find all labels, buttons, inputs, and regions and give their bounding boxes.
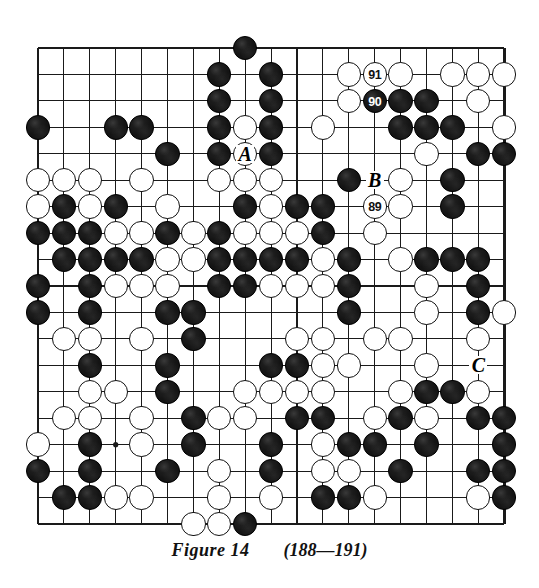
- white-stone: [26, 432, 50, 456]
- white-stone: [155, 274, 179, 298]
- caption-move-range: (188—191): [284, 540, 368, 560]
- white-stone: [363, 327, 387, 351]
- black-stone: [337, 485, 361, 509]
- white-stone: [414, 353, 438, 377]
- white-stone: [233, 115, 257, 139]
- black-stone: [388, 406, 412, 430]
- board-marker-c: C: [469, 356, 487, 374]
- black-stone: [78, 247, 102, 271]
- white-stone: [129, 485, 153, 509]
- white-stone: [337, 459, 361, 483]
- black-stone: [78, 459, 102, 483]
- black-stone: [414, 432, 438, 456]
- white-stone: [155, 194, 179, 218]
- black-stone: [104, 247, 128, 271]
- black-stone: [78, 221, 102, 245]
- black-stone: [466, 300, 490, 324]
- white-stone: [129, 432, 153, 456]
- white-stone: [388, 380, 412, 404]
- black-stone: [388, 115, 412, 139]
- numbered-stone-91: 91: [363, 62, 387, 86]
- black-stone: [181, 327, 205, 351]
- white-stone: [311, 274, 335, 298]
- black-stone: [78, 353, 102, 377]
- white-stone: [311, 327, 335, 351]
- black-stone: [78, 274, 102, 298]
- black-stone: [78, 432, 102, 456]
- black-stone: [311, 485, 335, 509]
- white-stone: [52, 327, 76, 351]
- black-stone: [414, 380, 438, 404]
- black-stone: [155, 300, 179, 324]
- black-stone: [155, 221, 179, 245]
- white-stone: [129, 274, 153, 298]
- white-stone: [78, 327, 102, 351]
- white-stone: [104, 274, 128, 298]
- black-stone: [259, 353, 283, 377]
- white-stone: [311, 432, 335, 456]
- white-stone: [259, 194, 283, 218]
- black-stone: [414, 247, 438, 271]
- white-stone: [311, 115, 335, 139]
- white-stone: [337, 89, 361, 113]
- black-stone: [337, 274, 361, 298]
- white-stone: [414, 406, 438, 430]
- white-stone: [181, 512, 205, 536]
- white-stone: [259, 485, 283, 509]
- white-stone: [259, 380, 283, 404]
- white-stone: [129, 221, 153, 245]
- white-stone: [311, 353, 335, 377]
- black-stone: [52, 247, 76, 271]
- white-stone: [155, 247, 179, 271]
- white-stone: [104, 221, 128, 245]
- black-stone: [78, 300, 102, 324]
- black-stone: [440, 168, 464, 192]
- black-stone: [259, 432, 283, 456]
- black-stone: [233, 194, 257, 218]
- white-stone: [388, 247, 412, 271]
- stone-number: 88: [394, 201, 407, 214]
- black-stone: [155, 380, 179, 404]
- black-stone: [26, 115, 50, 139]
- go-figure: 90898891 ABC Figure 14(188—191): [0, 0, 539, 588]
- white-stone: [414, 300, 438, 324]
- black-stone: [259, 62, 283, 86]
- white-stone: [466, 485, 490, 509]
- black-stone: [155, 142, 179, 166]
- white-stone: [492, 115, 516, 139]
- white-stone: [104, 485, 128, 509]
- black-stone: [466, 247, 490, 271]
- black-stone: [52, 485, 76, 509]
- black-stone: [285, 353, 309, 377]
- white-stone: [285, 380, 309, 404]
- white-stone: [181, 247, 205, 271]
- white-stone: [78, 194, 102, 218]
- white-stone: [129, 406, 153, 430]
- black-stone: [440, 194, 464, 218]
- black-stone: [259, 142, 283, 166]
- numbered-stone-88: 88: [388, 194, 412, 218]
- black-stone: [207, 247, 231, 271]
- white-stone: [129, 327, 153, 351]
- white-stone: [492, 62, 516, 86]
- white-stone: [78, 380, 102, 404]
- black-stone: [311, 194, 335, 218]
- white-stone: [466, 62, 490, 86]
- white-stone: [311, 380, 335, 404]
- numbered-stone-89: 89: [363, 194, 387, 218]
- white-stone: [181, 221, 205, 245]
- white-stone: [129, 168, 153, 192]
- go-board[interactable]: 90898891 ABC: [25, 35, 517, 537]
- white-stone: [492, 300, 516, 324]
- board-marker-a: A: [236, 145, 254, 163]
- white-stone: [363, 406, 387, 430]
- board-marker-b: B: [366, 171, 384, 189]
- black-stone: [78, 485, 102, 509]
- stone-number: 90: [368, 95, 381, 108]
- black-stone: [414, 115, 438, 139]
- black-stone: [388, 459, 412, 483]
- white-stone: [337, 62, 361, 86]
- black-stone: [440, 380, 464, 404]
- black-stone: [440, 247, 464, 271]
- black-stone: [363, 432, 387, 456]
